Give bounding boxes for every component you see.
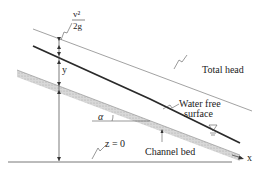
velocity-head-label: v² 2g	[61, 9, 85, 40]
water-surface-text-2: surface	[184, 108, 213, 119]
vertical-dimension	[57, 37, 61, 161]
water-surface-label: Water free surface	[163, 98, 221, 119]
angle-label: α	[98, 111, 104, 122]
datum-text: z = 0	[105, 138, 125, 149]
depth-label: y	[62, 64, 67, 75]
channel-bed-text: Channel bed	[145, 146, 195, 157]
total-head-text: Total head	[202, 64, 244, 75]
velocity-head-numerator: v²	[73, 9, 81, 19]
total-head-label: Total head	[174, 55, 244, 75]
x-axis-label: x	[247, 152, 252, 163]
datum-label: z = 0	[92, 138, 125, 159]
channel-flow-diagram: v² 2g y Total head Water free surface α …	[0, 0, 265, 174]
velocity-head-denominator: 2g	[73, 21, 83, 31]
